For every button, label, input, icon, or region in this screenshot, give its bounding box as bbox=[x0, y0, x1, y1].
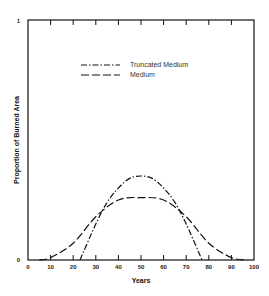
axis-ticks bbox=[51, 20, 232, 260]
chart-svg: 0102030405060708090100 0 1 Years Proport… bbox=[0, 0, 269, 296]
plot-frame bbox=[28, 20, 254, 260]
x-tick-60: 60 bbox=[160, 264, 167, 270]
y-tick-1: 1 bbox=[17, 18, 21, 24]
legend: Truncated Medium Medium bbox=[81, 61, 188, 78]
legend-label-truncated: Truncated Medium bbox=[130, 61, 188, 68]
x-tick-30: 30 bbox=[92, 264, 99, 270]
x-tick-20: 20 bbox=[70, 264, 77, 270]
x-axis-label: Years bbox=[132, 277, 151, 284]
x-tick-70: 70 bbox=[183, 264, 190, 270]
x-tick-10: 10 bbox=[47, 264, 54, 270]
x-tick-40: 40 bbox=[115, 264, 122, 270]
series-medium bbox=[39, 198, 247, 260]
series-truncated-medium bbox=[80, 176, 202, 260]
x-tick-90: 90 bbox=[228, 264, 235, 270]
legend-label-medium: Medium bbox=[130, 71, 155, 78]
x-tick-100: 100 bbox=[249, 264, 260, 270]
x-tick-0: 0 bbox=[26, 264, 30, 270]
x-tick-80: 80 bbox=[205, 264, 212, 270]
y-axis-label: Proportion of Burned Area bbox=[13, 96, 21, 184]
y-tick-0: 0 bbox=[17, 257, 21, 263]
x-tick-labels: 0102030405060708090100 bbox=[26, 264, 259, 270]
x-tick-50: 50 bbox=[138, 264, 145, 270]
